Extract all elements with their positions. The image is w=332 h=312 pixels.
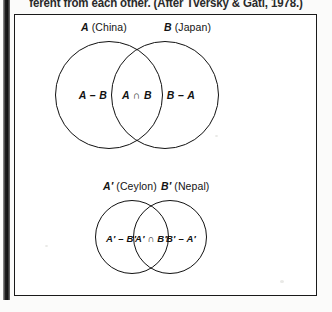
lower-left-set-country: (Ceylon) — [116, 180, 156, 192]
lower-venn-diagram: A′ (Ceylon) B′ (Nepal) A′ – B′ A′ ∩ B′ B… — [15, 180, 318, 297]
figure-caption-text: ferent from each other. (After Tversky &… — [0, 0, 332, 10]
upper-left-set-label: A (China) — [81, 21, 127, 33]
upper-left-set-country: (China) — [92, 21, 127, 33]
upper-left-set-symbol: A — [81, 21, 89, 33]
upper-venn-diagram: A (China) B (Japan) A – B A ∩ B B – A — [15, 15, 318, 175]
upper-right-set-symbol: B — [164, 21, 172, 33]
scan-speckle — [280, 280, 284, 283]
upper-right-set-country: (Japan) — [175, 21, 211, 33]
scan-speckle — [215, 135, 218, 137]
lower-right-set-country: (Nepal) — [174, 180, 209, 192]
figure-frame: A (China) B (Japan) A – B A ∩ B B – A A′… — [14, 14, 317, 296]
lower-left-set-label: A′ (Ceylon) — [103, 180, 157, 192]
book-gutter-shadow — [3, 0, 10, 300]
scanned-page: ferent from each other. (After Tversky &… — [0, 0, 332, 312]
lower-left-set-symbol: A′ — [103, 180, 113, 192]
scan-speckle — [45, 245, 48, 247]
lower-region-a-intersect-b: A′ ∩ B′ — [135, 233, 167, 244]
figure-caption: ferent from each other. (After Tversky &… — [0, 0, 332, 10]
lower-right-set-label: B′ (Nepal) — [161, 180, 209, 192]
upper-region-a-intersect-b: A ∩ B — [122, 89, 152, 101]
upper-right-set-label: B (Japan) — [164, 21, 211, 33]
lower-right-set-symbol: B′ — [161, 180, 171, 192]
lower-region-b-minus-a: B′ – A′ — [166, 233, 196, 244]
upper-region-a-minus-b: A – B — [79, 89, 107, 101]
lower-region-a-minus-b: A′ – B′ — [106, 233, 136, 244]
upper-region-b-minus-a: B – A — [167, 89, 195, 101]
